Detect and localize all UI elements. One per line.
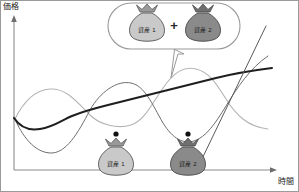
diagram-canvas: 資産 1 + 資産 2 資産 1	[0, 0, 299, 192]
asset-price-chart: 資産 1 + 資産 2 資産 1	[0, 0, 299, 192]
callout-asset1-label: 資産 1	[138, 26, 156, 34]
bag-tie-top-icon	[178, 138, 199, 146]
money-bag-asset2-icon: 資産 2	[170, 138, 205, 175]
marker-asset1-label: 資産 1	[107, 160, 125, 168]
series-asset1-curve	[14, 68, 268, 129]
bag-tie-top-icon	[106, 138, 127, 146]
callout-sum-of-assets: 資産 1 + 資産 2	[108, 3, 240, 78]
price-axis-label: 価格	[3, 3, 19, 11]
marker-asset2-label: 資産 2	[179, 160, 197, 168]
money-bag-asset1-icon: 資産 1	[98, 138, 133, 175]
callout-asset2-label: 資産 2	[194, 26, 212, 34]
data-point-dot-asset2	[185, 131, 190, 136]
price-axis-arrow-icon	[11, 15, 17, 22]
callout-plus-operator: +	[170, 18, 178, 33]
time-axis-label: 時間	[278, 178, 294, 186]
trough-marker-asset1: 資産 1	[98, 131, 133, 175]
data-point-dot-asset1	[113, 131, 118, 136]
time-axis-arrow-icon	[270, 167, 277, 173]
series-combined-trend-curve	[14, 68, 272, 130]
